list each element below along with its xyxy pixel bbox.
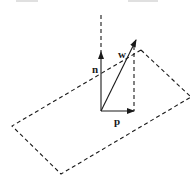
label-p: p bbox=[114, 115, 120, 127]
clipped-text-remnant bbox=[16, 0, 158, 2]
label-n: n bbox=[92, 63, 98, 75]
vector-projection-diagram: n w p bbox=[0, 0, 196, 182]
label-w: w bbox=[118, 48, 126, 60]
